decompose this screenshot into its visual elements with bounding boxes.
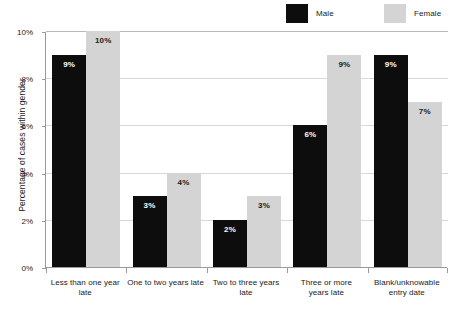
y-axis-tick [42, 79, 46, 80]
x-axis-category-label: Two to three years late [206, 278, 286, 298]
legend-item-male: Male [286, 3, 334, 23]
legend-swatch-male [286, 4, 308, 23]
bar-female-4: 7% [408, 102, 442, 267]
x-axis-category-line: entry date [367, 288, 447, 298]
x-axis-tick [447, 268, 448, 273]
legend-swatch-female [384, 4, 406, 23]
x-axis-category-line: Three or more [286, 278, 366, 288]
bar-male-4: 9% [374, 55, 408, 267]
x-axis-category-label: Three or moreyears late [286, 278, 366, 298]
x-axis-tick [207, 268, 208, 273]
x-axis-category-label: Less than one year late [45, 278, 125, 298]
x-axis-category-line: One to two years late [125, 278, 205, 288]
x-axis-category-line: Blank/unknowable [367, 278, 447, 288]
y-axis-tick [42, 174, 46, 175]
chart-legend: Male Female [286, 3, 458, 25]
bar-value-label: 4% [167, 178, 201, 187]
bar-value-label: 9% [374, 60, 408, 69]
x-axis-category-label: Blank/unknowableentry date [367, 278, 447, 298]
x-axis-category-line: Two to three years late [206, 278, 286, 298]
x-axis-category-line: years late [286, 288, 366, 298]
y-axis-tick [42, 126, 46, 127]
plot-area: 0%2%4%6%8%10%9%10%3%4%2%3%6%9%9%7% [45, 32, 447, 268]
bar-value-label: 9% [327, 60, 361, 69]
bar-female-2: 3% [247, 196, 281, 267]
y-axis-tick-label: 10% [0, 28, 33, 37]
bar-male-3: 6% [293, 125, 327, 267]
y-axis-tick [42, 32, 46, 33]
y-axis-tick-label: 4% [0, 169, 33, 178]
bar-male-0: 9% [52, 55, 86, 267]
bar-male-2: 2% [213, 220, 247, 267]
y-axis-tick-label: 0% [0, 264, 33, 273]
legend-label-male: Male [316, 9, 334, 18]
bar-value-label: 2% [213, 225, 247, 234]
x-axis-tick [126, 268, 127, 273]
bar-value-label: 7% [408, 107, 442, 116]
bar-male-1: 3% [133, 196, 167, 267]
bar-female-0: 10% [86, 31, 120, 267]
x-axis-tick [287, 268, 288, 273]
y-axis-tick-label: 6% [0, 122, 33, 131]
legend-label-female: Female [414, 9, 441, 18]
bar-female-1: 4% [167, 173, 201, 267]
bar-value-label: 10% [86, 36, 120, 45]
y-axis-tick-label: 8% [0, 75, 33, 84]
y-axis-tick [42, 221, 46, 222]
x-axis-category-line: Less than one year late [45, 278, 125, 298]
x-axis-category-label: One to two years late [125, 278, 205, 288]
x-axis-tick [46, 268, 47, 273]
y-axis-tick-label: 2% [0, 216, 33, 225]
bar-chart: Male Female Percentage of cases within g… [0, 0, 458, 310]
bar-female-3: 9% [327, 55, 361, 267]
bar-value-label: 3% [133, 201, 167, 210]
bar-value-label: 9% [52, 60, 86, 69]
legend-item-female: Female [384, 3, 441, 23]
bar-value-label: 6% [293, 130, 327, 139]
x-axis-tick [368, 268, 369, 273]
bar-value-label: 3% [247, 201, 281, 210]
